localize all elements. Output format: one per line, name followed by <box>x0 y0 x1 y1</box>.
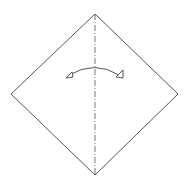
origami-diagram <box>0 0 191 178</box>
paper-diamond <box>11 14 178 175</box>
diagram-svg <box>0 0 191 178</box>
